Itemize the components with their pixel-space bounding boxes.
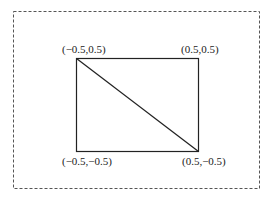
- label-top-right: (0.5,0.5): [181, 43, 219, 56]
- label-bottom-left: (−0.5,−0.5): [62, 155, 112, 168]
- diagram-canvas: (−0.5,0.5) (0.5,0.5) (−0.5,−0.5) (0.5,−0…: [0, 0, 270, 211]
- diagonal-line: [77, 59, 199, 152]
- label-top-left: (−0.5,0.5): [62, 43, 106, 56]
- label-bottom-right: (0.5,−0.5): [182, 155, 226, 168]
